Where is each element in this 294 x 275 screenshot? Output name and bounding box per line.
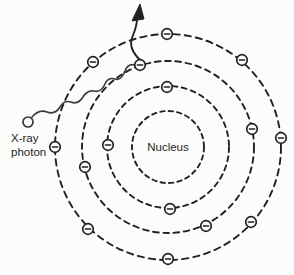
xray-photon-label-line1: X-ray — [11, 132, 39, 144]
electron-icon — [276, 133, 287, 144]
ejected-electron-arrow-icon — [132, 4, 144, 21]
electron-icon — [237, 55, 248, 66]
electron-icon — [162, 29, 173, 40]
electron-icon — [135, 60, 146, 71]
electron-icon — [162, 82, 173, 93]
electron-icon — [103, 140, 114, 151]
xray-photon-label-line2: photon — [11, 146, 46, 158]
photon-wavy-line — [32, 64, 138, 117]
electron-icon — [165, 204, 176, 215]
photon-icon — [23, 117, 33, 127]
electron-icon — [88, 57, 99, 68]
atom-diagram-svg: Nucleus X-ray photon — [0, 0, 294, 275]
nucleus-label: Nucleus — [147, 141, 189, 153]
electron-icon — [246, 217, 257, 228]
atom-diagram: Nucleus X-ray photon — [0, 0, 294, 275]
electron-icon — [83, 224, 94, 235]
electron-icon — [201, 221, 212, 232]
electron-icon — [80, 162, 91, 173]
electron-icon — [247, 124, 258, 135]
electron-icon — [163, 254, 174, 265]
electron-icon — [50, 142, 61, 153]
